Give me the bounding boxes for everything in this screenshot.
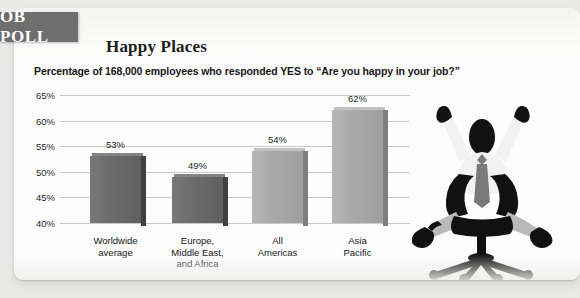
y-axis-tick-label: 40% — [36, 218, 55, 229]
y-axis-tick-label: 65% — [36, 90, 55, 101]
page-title: Happy Places — [106, 37, 207, 57]
bar-top-face — [92, 153, 143, 156]
poll-card: Happy Places Percentage of 168,000 emplo… — [14, 8, 580, 280]
bar-front-face — [252, 151, 303, 223]
x-axis-category-label: AsiaPacific — [312, 235, 404, 258]
bar-side-face — [223, 177, 228, 226]
bar-side-face — [303, 151, 308, 226]
y-axis-tick-label: 60% — [36, 115, 55, 126]
bar-value-label: 49% — [188, 160, 207, 171]
job-poll-badge: OB POLL — [0, 12, 78, 42]
bar-top-face — [174, 174, 225, 177]
screenshot-root: Happy Places Percentage of 168,000 emplo… — [0, 0, 580, 298]
y-axis-tick-label: 45% — [36, 192, 55, 203]
bar-column: 53%Worldwideaverage — [90, 156, 141, 223]
bar-front-face — [332, 110, 383, 223]
bar-top-face — [254, 148, 305, 151]
bar-column: 62%AsiaPacific — [332, 110, 383, 223]
bar-side-face — [383, 110, 388, 226]
bar-value-label: 53% — [106, 139, 125, 150]
bar-series: 53%Worldwideaverage49%Europe,Middle East… — [60, 95, 410, 223]
x-axis-category-label: Worldwideaverage — [70, 235, 162, 258]
bar-front-face — [172, 177, 223, 223]
celebrating-office-worker-illustration — [412, 100, 580, 280]
card-top-sheen — [14, 8, 580, 68]
chart-plot-area: 40%45%50%55%60%65% 53%Worldwideaverage49… — [60, 95, 410, 223]
bar-top-face — [334, 107, 385, 110]
bar-column: 54%AllAmericas — [252, 151, 303, 223]
x-axis-category-label: AllAmericas — [232, 235, 324, 258]
bar-value-label: 54% — [268, 134, 287, 145]
y-axis-tick-label: 50% — [36, 166, 55, 177]
chart-subtitle: Percentage of 168,000 employees who resp… — [34, 65, 460, 77]
bar-column: 49%Europe,Middle East,and Africa — [172, 177, 223, 223]
x-axis-category-label: Europe,Middle East,and Africa — [152, 235, 244, 270]
gridline: 40% — [60, 223, 410, 224]
y-axis-tick-label: 55% — [36, 141, 55, 152]
bar-value-label: 62% — [348, 93, 367, 104]
bar-front-face — [90, 156, 141, 223]
bar-side-face — [141, 156, 146, 226]
